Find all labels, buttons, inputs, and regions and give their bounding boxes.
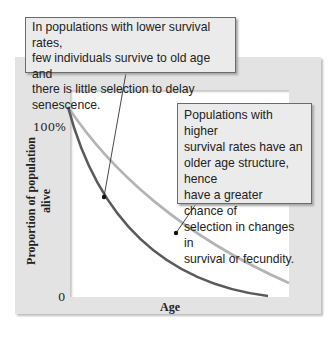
callout-low-survival: In populations with lower survival rates… (25, 17, 236, 73)
x-axis-label: Age (160, 300, 180, 315)
callout-high-line-1: Populations with higher (184, 107, 305, 139)
callout-high-line-2: survival rates have an (184, 139, 305, 155)
high-curve-marker (174, 231, 178, 235)
callout-high-line-5: selection in changes in (184, 219, 305, 251)
callout-high-line-4: have a greater chance of (184, 187, 305, 219)
y-axis-label: Proportion of population alive (24, 126, 54, 276)
low-curve-marker (102, 195, 106, 199)
y-tick-0: 0 (58, 290, 65, 304)
callout-high-line-6: survival or fecundity. (184, 251, 305, 267)
callout-high-survival: Populations with higher survival rates h… (177, 103, 312, 204)
callout-low-line-1: In populations with lower survival rates… (32, 20, 229, 51)
callout-high-line-3: older age structure, hence (184, 155, 305, 187)
callout-low-line-2: few individuals survive to old age and (32, 51, 229, 82)
